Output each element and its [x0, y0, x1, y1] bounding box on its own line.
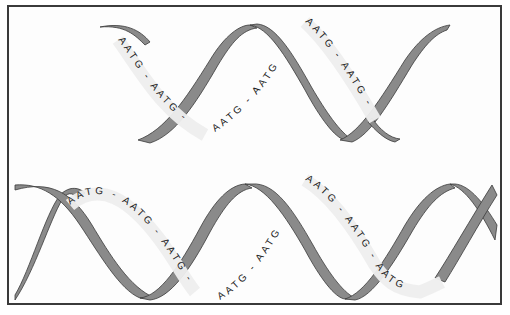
top-sequence-label-2: AATG - AATG — [210, 59, 281, 134]
top-sequence-label-1: AATG - AATG - — [116, 35, 190, 124]
bottom-sequence-label-2: AATG - AATG — [215, 225, 283, 302]
bottom-ribbon-7 — [435, 185, 497, 282]
dna-diagram: AATG - AATG - AATG - AATG AATG - AATG - … — [0, 0, 510, 315]
top-ribbon-tail — [368, 118, 400, 142]
bottom-helix: AATG - AATG - AATG - AATG - AATG AATG - … — [15, 172, 497, 301]
top-helix: AATG - AATG - AATG - AATG AATG - AATG - — [100, 15, 450, 143]
